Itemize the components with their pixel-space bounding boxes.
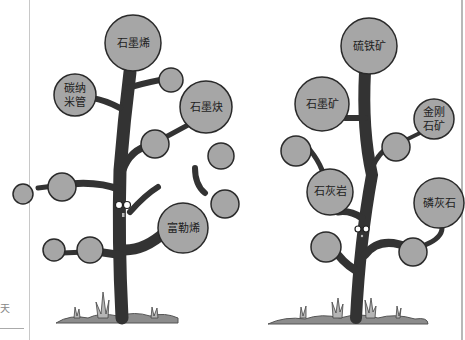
leaf-blank — [159, 68, 183, 92]
right-ground — [268, 315, 428, 324]
leaf-blank — [13, 184, 33, 204]
leaf-blank — [77, 237, 103, 263]
leaf-label-diamond-ore-2: 石矿 — [423, 120, 445, 133]
leaf-blank — [211, 190, 239, 218]
leaf-blank — [43, 239, 65, 261]
leaf-label-limestone: 石灰岩 — [314, 184, 347, 198]
leaf-blank — [382, 133, 410, 161]
leaf-blank — [399, 238, 427, 266]
leaf-label-graphyne: 石墨炔 — [190, 101, 223, 114]
leaf-carbon-nanotube — [54, 74, 96, 116]
leaf-blank — [281, 136, 311, 166]
right-tree: 硫铁矿 石墨矿 金刚 石矿 石灰岩 磷灰石 — [268, 18, 464, 324]
trees-illustration: 石墨烯 碳纳 米管 石墨炔 富勒烯 — [0, 0, 465, 340]
leaf-label-pyrite: 硫铁矿 — [353, 39, 386, 53]
leaf-diamond-ore — [414, 99, 454, 139]
leaf-blank — [208, 143, 234, 169]
leaf-blank — [311, 232, 341, 262]
leaf-label-graphite-ore: 石墨矿 — [306, 98, 339, 111]
leaf-label-diamond-ore-1: 金刚 — [423, 105, 445, 119]
leaf-label-fullerene: 富勒烯 — [167, 221, 200, 235]
left-tree: 石墨烯 碳纳 米管 石墨炔 富勒烯 — [13, 15, 239, 323]
leaf-label-carbon-nanotube-1: 碳纳 — [64, 81, 86, 95]
page: 天 — [0, 0, 465, 340]
leaf-label-apatite: 磷灰石 — [423, 196, 456, 210]
leaf-blank — [141, 130, 169, 158]
leaf-blank — [48, 173, 76, 201]
leaf-label-graphene: 石墨烯 — [117, 37, 150, 50]
leaf-label-carbon-nanotube-2: 米管 — [64, 95, 86, 109]
